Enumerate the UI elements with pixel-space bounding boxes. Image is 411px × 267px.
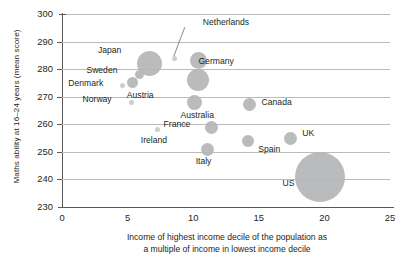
x-tick-label-5: 5: [113, 212, 143, 223]
point-label-italy: Italy: [196, 157, 212, 166]
y-tick-label-270: 270: [27, 91, 53, 102]
point-label-canada: Canada: [262, 98, 292, 107]
x-tick-label-20: 20: [309, 212, 339, 223]
y-tick-label-300: 300: [27, 8, 53, 19]
point-label-germany: Germany: [198, 57, 233, 66]
x-axis-title-line2: a multiple of income in lowest income de…: [62, 244, 392, 256]
y-tick-label-250: 250: [27, 146, 53, 157]
x-axis-title: Income of highest income decile of the p…: [62, 232, 392, 255]
x-tick-label-25: 25: [375, 212, 405, 223]
y-tick-label-290: 290: [27, 36, 53, 47]
x-tick-label-15: 15: [244, 212, 274, 223]
x-tick-label-0: 0: [47, 212, 77, 223]
plot-area: 3002902802702602502402300510152025Nether…: [62, 14, 390, 207]
x-axis-title-line1: Income of highest income decile of the p…: [62, 232, 392, 244]
bubble-chart: Maths ability at 16–24 years (mean score…: [0, 0, 411, 267]
point-label-sweden: Sweden: [86, 66, 117, 75]
point-label-denmark: Denmark: [68, 79, 103, 88]
y-tick-230: [59, 207, 66, 208]
y-tick-label-280: 280: [27, 63, 53, 74]
point-label-uk: UK: [302, 129, 314, 138]
point-label-ireland: Ireland: [141, 136, 167, 145]
x-axis-line: [58, 207, 394, 208]
point-label-us: US: [282, 179, 294, 188]
x-tick-label-10: 10: [178, 212, 208, 223]
point-label-japan: Japan: [98, 46, 121, 55]
point-label-austria: Austria: [127, 91, 154, 100]
y-tick-label-260: 260: [27, 118, 53, 129]
y-tick-label-240: 240: [27, 173, 53, 184]
point-label-france: France: [164, 120, 191, 129]
point-label-netherlands: Netherlands: [203, 18, 249, 27]
point-label-norway: Norway: [83, 95, 112, 104]
y-axis-title: Maths ability at 16–24 years (mean score…: [12, 7, 21, 207]
point-label-spain: Spain: [258, 145, 280, 154]
y-tick-label-230: 230: [27, 201, 53, 212]
leader-line-netherlands: [62, 14, 390, 207]
